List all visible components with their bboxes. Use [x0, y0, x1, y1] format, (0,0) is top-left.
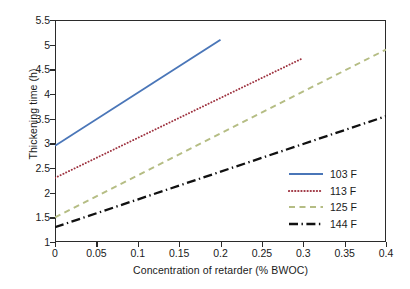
y-tick-mark — [50, 119, 55, 120]
y-tick-label: 1.5 — [6, 211, 50, 223]
x-tick-label: 0.4 — [362, 247, 410, 259]
x-tick-mark — [138, 242, 139, 247]
legend-label: 144 F — [330, 218, 357, 230]
y-tick-mark — [50, 45, 55, 46]
figure-caption-fragment — [6, 280, 406, 289]
x-axis-title: Concentration of retarder (% BWOC) — [55, 264, 386, 276]
legend-item-113-f[interactable]: 113 F — [288, 183, 374, 200]
x-tick-mark — [262, 242, 263, 247]
y-tick-mark — [50, 69, 55, 70]
legend-swatch-icon — [288, 201, 324, 213]
series-line-113-f — [55, 58, 303, 178]
y-tick-label: 4.5 — [6, 63, 50, 75]
chart-legend: 103 F113 F125 F144 F — [288, 166, 374, 232]
y-tick-mark — [50, 217, 55, 218]
y-tick-label: 5 — [6, 39, 50, 51]
y-tick-mark — [50, 193, 55, 194]
y-tick-mark — [50, 168, 55, 169]
legend-item-103-f[interactable]: 103 F — [288, 166, 374, 183]
x-tick-mark — [96, 242, 97, 247]
legend-label: 125 F — [330, 201, 357, 213]
x-tick-mark — [55, 242, 56, 247]
x-tick-mark — [386, 242, 387, 247]
y-tick-mark — [50, 143, 55, 144]
x-tick-mark — [345, 242, 346, 247]
y-tick-label: 2.5 — [6, 162, 50, 174]
x-tick-mark — [221, 242, 222, 247]
x-axis-tick-labels: 00.050.10.150.20.250.30.350.4 — [55, 247, 386, 263]
legend-item-144-f[interactable]: 144 F — [288, 216, 374, 233]
legend-swatch-icon — [288, 168, 324, 180]
y-tick-mark — [50, 20, 55, 21]
x-tick-mark — [179, 242, 180, 247]
y-tick-label: 5.5 — [6, 14, 50, 26]
legend-label: 113 F — [330, 185, 356, 197]
legend-swatch-icon — [288, 218, 324, 230]
legend-swatch-icon — [288, 185, 324, 197]
y-tick-label: 3 — [6, 137, 50, 149]
y-axis-tick-labels: 11.522.533.544.555.5 — [0, 20, 50, 242]
x-tick-mark — [303, 242, 304, 247]
y-tick-label: 3.5 — [6, 113, 50, 125]
chart-figure: Thickening time (h) 11.522.533.544.555.5… — [0, 0, 410, 289]
legend-label: 103 F — [330, 168, 357, 180]
y-tick-mark — [50, 94, 55, 95]
y-tick-label: 4 — [6, 88, 50, 100]
legend-item-125-f[interactable]: 125 F — [288, 199, 374, 216]
series-line-103-f — [55, 40, 221, 146]
y-tick-label: 2 — [6, 187, 50, 199]
